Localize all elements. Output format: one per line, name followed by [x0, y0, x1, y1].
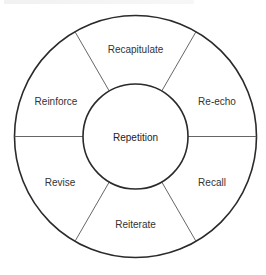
segment-label-reinforce: Reinforce: [35, 96, 78, 107]
segment-label-reiterate: Reiterate: [115, 219, 156, 230]
divider-lower-left: [75, 182, 109, 241]
segment-label-revise: Revise: [45, 177, 76, 188]
divider-upper-right: [162, 32, 196, 91]
repetition-ring-diagram: Repetition Recapitulate Re-echo Recall R…: [0, 0, 266, 275]
divider-upper-left: [75, 32, 109, 91]
segment-label-recapitulate: Recapitulate: [108, 44, 164, 55]
center-label: Repetition: [113, 132, 158, 143]
divider-lower-right: [162, 182, 196, 241]
segment-label-re-echo: Re-echo: [198, 96, 236, 107]
segment-label-recall: Recall: [198, 177, 226, 188]
